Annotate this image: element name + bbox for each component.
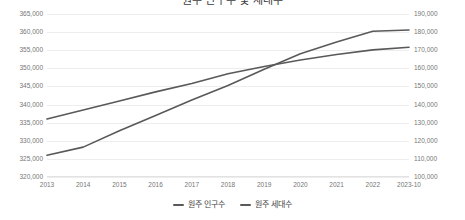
chart-legend: 원주 인구수원주 세대수 <box>0 201 465 209</box>
y-axis-left-tick: 325,000 <box>20 156 44 163</box>
chart-title: 원주 인구수 및 세대수 <box>0 0 465 7</box>
y-axis-left-tick: 350,000 <box>20 65 44 72</box>
series-line <box>47 47 409 119</box>
x-axis-tick: 2015 <box>112 182 126 189</box>
y-axis-right-tick: 130,000 <box>414 120 438 127</box>
y-axis-left-tick: 330,000 <box>20 138 44 145</box>
legend-label: 원주 인구수 <box>188 201 225 209</box>
y-axis-left-tick: 365,000 <box>20 11 44 18</box>
plot-area <box>47 14 409 177</box>
y-axis-right-tick: 180,000 <box>414 29 438 36</box>
y-axis-right-tick: 100,000 <box>414 174 438 181</box>
legend-item[interactable]: 원주 인구수 <box>173 201 225 209</box>
x-axis-tick: 2023-10 <box>397 182 421 189</box>
x-axis-tick: 2021 <box>329 182 343 189</box>
y-axis-left-tick: 345,000 <box>20 83 44 90</box>
legend-line-icon <box>173 204 184 206</box>
series-layer <box>47 14 409 177</box>
x-axis-tick: 2018 <box>221 182 235 189</box>
x-axis-tick: 2022 <box>366 182 380 189</box>
y-axis-left-tick: 340,000 <box>20 102 44 109</box>
x-axis-tick: 2013 <box>40 182 54 189</box>
line-chart: 원주 인구수 및 세대수 320,000325,000330,000335,00… <box>0 0 465 220</box>
series-line <box>47 30 409 155</box>
y-axis-right-tick: 140,000 <box>414 102 438 109</box>
y-axis-left-tick: 320,000 <box>20 174 44 181</box>
y-axis-left-tick: 360,000 <box>20 29 44 36</box>
y-axis-left-tick: 355,000 <box>20 47 44 54</box>
legend-line-icon <box>240 204 251 206</box>
x-axis-tick: 2017 <box>185 182 199 189</box>
gridline <box>47 177 409 178</box>
y-axis-left-tick: 335,000 <box>20 120 44 127</box>
y-axis-right-tick: 120,000 <box>414 138 438 145</box>
x-axis-tick: 2020 <box>293 182 307 189</box>
x-axis-tick: 2016 <box>148 182 162 189</box>
y-axis-right-tick: 170,000 <box>414 47 438 54</box>
y-axis-right-tick: 150,000 <box>414 83 438 90</box>
x-axis-tick: 2019 <box>257 182 271 189</box>
x-axis-tick: 2014 <box>76 182 90 189</box>
legend-label: 원주 세대수 <box>255 201 292 209</box>
legend-item[interactable]: 원주 세대수 <box>240 201 292 209</box>
y-axis-right-tick: 160,000 <box>414 65 438 72</box>
y-axis-right-tick: 110,000 <box>414 156 437 163</box>
y-axis-right-tick: 190,000 <box>414 11 438 18</box>
